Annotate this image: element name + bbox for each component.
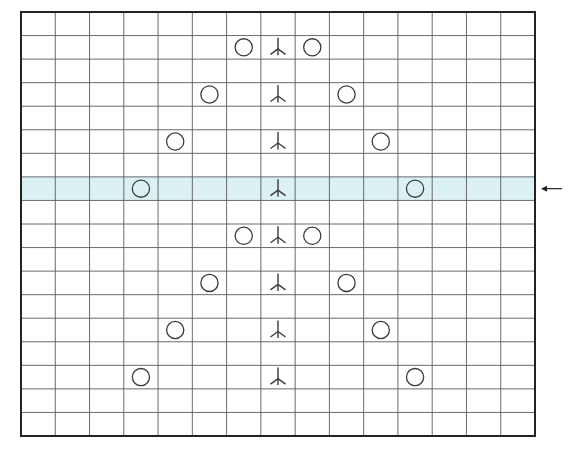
- chart-symbols: [132, 38, 423, 386]
- yarn-over-circle-icon: [201, 86, 218, 103]
- yarn-over-circle-icon: [132, 369, 149, 386]
- yarn-over-circle-icon: [235, 39, 252, 56]
- yarn-over-circle-icon: [167, 133, 184, 150]
- yarn-over-circle-icon: [167, 321, 184, 338]
- central-double-decrease-icon: [271, 273, 286, 291]
- yarn-over-circle-icon: [304, 39, 321, 56]
- yarn-over-circle-icon: [338, 86, 355, 103]
- yarn-over-circle-icon: [304, 227, 321, 244]
- yarn-over-circle-icon: [372, 321, 389, 338]
- yarn-over-circle-icon: [406, 369, 423, 386]
- yarn-over-circle-icon: [235, 227, 252, 244]
- left-arrow-icon: [541, 186, 562, 192]
- yarn-over-circle-icon: [372, 133, 389, 150]
- central-double-decrease-icon: [271, 321, 286, 339]
- knitting-chart: [0, 0, 579, 458]
- central-double-decrease-icon: [271, 38, 286, 56]
- central-double-decrease-icon: [271, 85, 286, 103]
- central-double-decrease-icon: [271, 368, 286, 386]
- arrow-head: [541, 186, 547, 192]
- yarn-over-circle-icon: [201, 274, 218, 291]
- yarn-over-circle-icon: [338, 274, 355, 291]
- central-double-decrease-icon: [271, 132, 286, 150]
- central-double-decrease-icon: [271, 226, 286, 244]
